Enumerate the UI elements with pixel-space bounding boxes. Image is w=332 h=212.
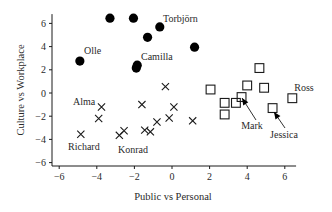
y-tick-label: −2 <box>35 111 46 122</box>
data-points <box>75 14 296 139</box>
circle-marker <box>129 14 138 23</box>
arrowhead-icon <box>242 98 248 106</box>
cross-marker <box>95 115 102 122</box>
scatter-chart: −6−4−20246−6−4−20246 OlleCamillaTorbjörn… <box>0 0 332 212</box>
cross-marker <box>141 127 148 134</box>
point-label: Konrad <box>118 144 148 155</box>
x-tick-label: −4 <box>91 171 102 182</box>
cross-marker <box>153 118 160 125</box>
annotations: OlleCamillaTorbjörnAlmaRichardKonradRoss… <box>68 13 314 155</box>
x-tick-label: 2 <box>207 171 212 182</box>
y-tick-label: 4 <box>41 41 46 52</box>
cross-marker <box>116 132 123 139</box>
circle-marker <box>132 63 141 72</box>
square-marker <box>255 64 264 73</box>
y-tick-label: −4 <box>35 134 46 145</box>
x-tick-label: −2 <box>129 171 140 182</box>
square-marker <box>232 98 241 107</box>
point-label: Olle <box>84 45 102 56</box>
cross-marker <box>98 103 105 110</box>
point-label: Alma <box>73 96 96 107</box>
x-axis-title: Public vs Personal <box>134 191 212 202</box>
y-tick-label: 6 <box>41 18 46 29</box>
x-tick-label: −6 <box>54 171 65 182</box>
y-tick-label: 2 <box>41 64 46 75</box>
cross-marker <box>138 101 145 108</box>
point-label: Camilla <box>141 51 173 62</box>
y-tick-label: 0 <box>41 88 46 99</box>
cross-marker <box>162 83 169 90</box>
point-label: Jessica <box>270 129 298 140</box>
square-marker <box>260 83 269 92</box>
x-tick-label: 6 <box>282 171 287 182</box>
point-label: Mark <box>241 120 263 131</box>
y-axis-title: Culture vs Workplace <box>15 44 26 135</box>
point-label: Torbjörn <box>163 13 198 24</box>
cross-marker <box>77 131 84 138</box>
series-crosses <box>77 83 196 139</box>
x-tick-label: 0 <box>170 171 175 182</box>
point-label: Richard <box>68 141 100 152</box>
square-marker <box>288 94 297 103</box>
arrowhead-icon <box>274 112 280 119</box>
cross-marker <box>147 128 154 135</box>
circle-marker <box>105 14 114 23</box>
square-marker <box>206 85 215 94</box>
circle-marker <box>143 33 152 42</box>
circle-marker <box>75 57 84 66</box>
x-tick-label: 4 <box>245 171 250 182</box>
cross-marker <box>170 103 177 110</box>
y-tick-label: −6 <box>35 157 46 168</box>
series-open-squares <box>206 64 297 119</box>
circle-marker <box>190 43 199 52</box>
square-marker <box>243 81 252 90</box>
point-label: Ross <box>294 82 314 93</box>
cross-marker <box>189 117 196 124</box>
square-marker <box>220 98 229 107</box>
square-marker <box>220 110 229 119</box>
square-marker <box>268 104 277 113</box>
cross-marker <box>166 114 173 121</box>
